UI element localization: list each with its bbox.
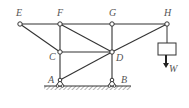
- member-FD: [60, 24, 112, 52]
- joint-D: [110, 50, 114, 54]
- joint-C: [58, 50, 62, 54]
- member-AD: [60, 52, 112, 80]
- joint-label-B: B: [121, 74, 127, 85]
- load-label: W: [169, 63, 179, 74]
- joint-label-F: F: [56, 7, 64, 18]
- joint-label-D: D: [115, 52, 124, 63]
- joint-B: [110, 78, 114, 82]
- load-w: W: [158, 24, 179, 74]
- truss-diagram: W EFGHCDAB: [0, 0, 189, 108]
- joint-label-H: H: [163, 7, 172, 18]
- joint-G: [110, 22, 114, 26]
- joint-labels: EFGHCDAB: [15, 7, 172, 85]
- joint-H: [165, 22, 169, 26]
- joint-E: [18, 22, 22, 26]
- joint-A: [58, 78, 62, 82]
- weight-box: [158, 43, 176, 55]
- joint-label-C: C: [49, 51, 56, 62]
- member-EC: [20, 24, 60, 52]
- truss-members: [20, 24, 167, 80]
- joint-label-A: A: [47, 74, 55, 85]
- joint-label-G: G: [109, 7, 116, 18]
- joint-F: [58, 22, 62, 26]
- joint-label-E: E: [15, 7, 22, 18]
